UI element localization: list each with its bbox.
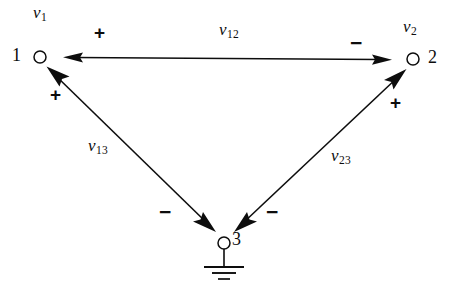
node-1-voltage-sub: 1: [41, 11, 47, 23]
node-2-voltage-var: v: [403, 17, 411, 36]
polarity-plus-v23-node2: +: [390, 93, 401, 112]
branch-v12-arrowhead-left: [63, 52, 83, 62]
node-3-terminal: [218, 237, 230, 249]
node-1-voltage-label: v1: [33, 4, 47, 24]
circuit-schematic-canvas: [0, 0, 451, 294]
branch-v12-sub: 12: [227, 28, 239, 40]
branch-v23-sub: 23: [339, 154, 351, 166]
branch-v23: [234, 69, 407, 232]
node-3-number: 3: [232, 230, 241, 248]
branch-v12-var: v: [219, 20, 227, 39]
polarity-minus-v23-node3: −: [266, 205, 278, 220]
polarity-minus-v13-node3: −: [159, 205, 171, 220]
polarity-minus-v12-node2: −: [350, 36, 362, 51]
branch-v13-arrowhead-bottom: [193, 212, 216, 232]
branch-v12: [63, 52, 392, 64]
circuit-diagram: 1 v1 2 v2 3 v12 v13 v23 + − + + − −: [0, 0, 451, 294]
node-2-number: 2: [428, 48, 437, 66]
branch-v13-var: v: [88, 136, 96, 155]
node-1-voltage-var: v: [33, 3, 41, 22]
branch-v23-var: v: [331, 146, 339, 165]
branch-v12-line: [76, 58, 378, 60]
node-2-voltage-sub: 2: [411, 25, 417, 37]
branch-v12-arrowhead-right: [372, 55, 392, 65]
node-1-terminal: [34, 51, 46, 63]
node-2-terminal: [407, 53, 419, 65]
node-2-voltage-label: v2: [403, 18, 417, 38]
polarity-plus-v12-node1: +: [94, 23, 105, 42]
node-1-number: 1: [12, 46, 21, 64]
branch-v13: [47, 67, 217, 233]
branch-v13-line: [55, 75, 207, 223]
branch-v12-label: v12: [219, 21, 239, 41]
branch-v13-label: v13: [88, 137, 108, 157]
branch-v13-sub: 13: [96, 144, 108, 156]
polarity-plus-v13-node1: +: [50, 85, 61, 104]
branch-v23-label: v23: [331, 147, 351, 167]
ground-symbol: [204, 249, 244, 279]
